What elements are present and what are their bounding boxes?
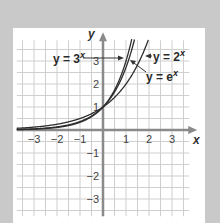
y-axis-label: y <box>87 27 96 41</box>
x-tick-label: 2 <box>146 133 152 145</box>
y-tick-label: −1 <box>86 147 99 159</box>
label-3x: y = 3x <box>53 50 86 66</box>
y-tick-label: −2 <box>86 170 99 182</box>
y-tick-label: −3 <box>86 193 99 205</box>
label-ex: y = ex <box>146 68 179 84</box>
label-2x: y = 2x <box>153 48 186 64</box>
x-tick-label: −2 <box>51 133 64 145</box>
exponential-graph: xy −3−2−1123321−1−2−3 y = 3xy = 2xy = ex <box>0 0 220 223</box>
arrow-2x-icon <box>145 54 151 59</box>
x-tick-label: −1 <box>74 133 87 145</box>
x-tick-label: 3 <box>169 133 175 145</box>
x-tick-label: −3 <box>28 133 41 145</box>
y-tick-label: 3 <box>93 55 99 67</box>
arrow-3x-icon <box>118 56 124 61</box>
y-tick-label: 2 <box>93 78 99 90</box>
x-tick-label: 1 <box>123 133 129 145</box>
y-axis-arrow-icon <box>99 32 107 41</box>
x-axis-label: x <box>192 133 201 147</box>
